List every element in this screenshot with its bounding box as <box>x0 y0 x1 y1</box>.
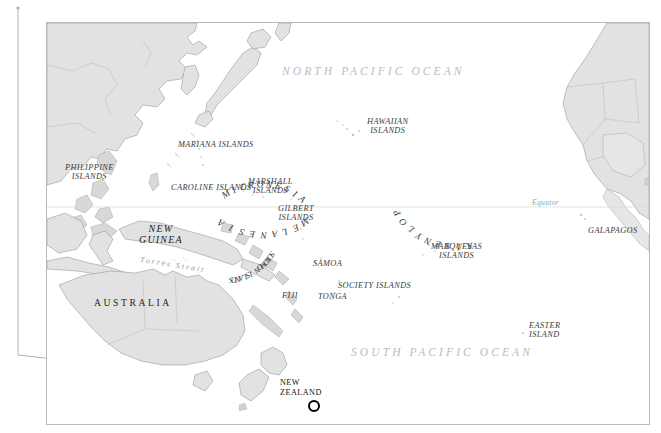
label-galapagos: GALAPAGOS <box>588 226 638 235</box>
japan-ryukyu-chain <box>167 133 195 167</box>
new-zealand-marker[interactable] <box>308 400 320 412</box>
label-australia: AUSTRALIA <box>94 298 172 309</box>
asia-mainland <box>47 23 207 185</box>
polynesia-glyph: I <box>457 242 460 252</box>
sulawesi <box>89 231 113 265</box>
new-zealand-north-island <box>261 347 287 375</box>
label-new-zealand: NEW ZEALAND <box>280 378 322 398</box>
north-america <box>563 23 649 219</box>
label-society-islands: SOCIETY ISLANDS <box>338 281 411 290</box>
melanesia-glyph: N <box>260 230 266 240</box>
label-hawaiian-islands: HAWAIIAN ISLANDS <box>367 117 408 136</box>
label-north-pacific-ocean: NORTH PACIFIC OCEAN <box>282 65 465 78</box>
label-philippine-islands: PHILIPPINE ISLANDS <box>65 163 114 182</box>
solomon-islands-glyph: S <box>228 276 233 285</box>
map-frame[interactable]: .land{fill:#e2e2e2;stroke:#9b9b9b;stroke… <box>46 22 650 425</box>
label-tonga: TONGA <box>318 292 347 301</box>
label-samoa: SAMOA <box>313 259 342 268</box>
label-fiji: FIJI <box>282 291 298 300</box>
polynesia-glyph: A <box>466 241 473 252</box>
leader-endpoint-dot <box>16 6 19 9</box>
label-mariana-islands: MARIANA ISLANDS <box>178 140 254 149</box>
pacific-island-dots <box>196 120 586 334</box>
kamchatka <box>275 23 291 41</box>
micronesia-glyph: O <box>257 179 264 189</box>
label-easter-island: EASTER ISLAND <box>529 321 560 340</box>
new-zealand-south-island <box>239 369 269 401</box>
map-geometry: .land{fill:#e2e2e2;stroke:#9b9b9b;stroke… <box>47 23 649 424</box>
melanesia-glyph: A <box>271 229 278 240</box>
japan-kyushu-shikoku <box>195 111 213 127</box>
map-screenshot: .land{fill:#e2e2e2;stroke:#9b9b9b;stroke… <box>0 0 661 433</box>
label-equator: Equator <box>532 199 559 208</box>
stewart-island <box>239 403 247 411</box>
australia-mainland <box>59 269 245 365</box>
tasmania <box>193 371 213 391</box>
japan-honshu <box>205 47 261 115</box>
japan-hokkaido <box>247 29 271 49</box>
taiwan <box>149 173 159 191</box>
label-new-guinea: NEW GUINEA <box>139 223 183 245</box>
label-south-pacific-ocean: SOUTH PACIFIC OCEAN <box>351 346 533 359</box>
